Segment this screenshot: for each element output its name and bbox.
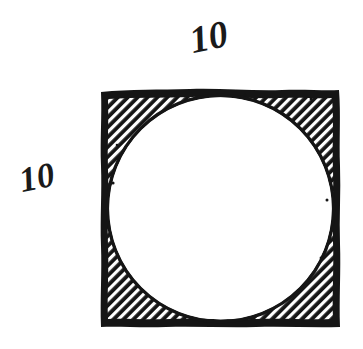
dimension-label-top: 10: [186, 14, 231, 59]
geometry-diagram: [0, 0, 363, 349]
dimension-label-left: 10: [16, 157, 58, 199]
figure-canvas: 10 10: [0, 0, 363, 349]
inscribed-circle: [108, 96, 334, 322]
